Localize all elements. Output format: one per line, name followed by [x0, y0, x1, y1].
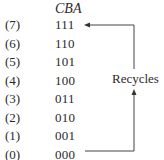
arrowhead-up-icon	[132, 89, 137, 95]
recycles-label: Recycles	[112, 71, 159, 87]
arrowhead-left-icon	[84, 23, 90, 28]
